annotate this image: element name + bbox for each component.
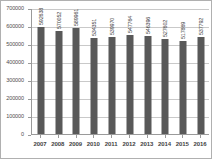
x-axis-tick-label: 2007 (31, 141, 49, 148)
bar-slot: 589961 (68, 9, 86, 134)
y-axis-tick-label: 100000 (6, 114, 24, 120)
x-axis-tick-mark (111, 135, 112, 138)
x-axis-tick-mark (76, 135, 77, 138)
x-axis-tick-label: 2010 (84, 141, 102, 148)
bar-value-label: 537792 (198, 18, 204, 35)
y-axis-tick-label: 0 (21, 132, 24, 138)
bar-value-label: 592638 (37, 8, 43, 25)
x-axis-tick-mark (129, 135, 130, 138)
x-axis-tick-mark (200, 135, 201, 138)
bar[interactable] (162, 39, 169, 134)
x-axis: 2007200820092010201120122013201420152016 (31, 135, 209, 157)
y-axis-tick-label: 200000 (6, 96, 24, 102)
x-axis-tick-label: 2016 (191, 141, 209, 148)
bar-value-label: 527602 (162, 20, 168, 37)
bar[interactable] (37, 27, 44, 134)
y-axis-tick-label: 300000 (6, 78, 24, 84)
bar-slot: 517869 (174, 9, 192, 134)
bar-value-label: 534351 (91, 19, 97, 36)
bar[interactable] (91, 38, 98, 134)
y-axis-tick-label: 500000 (6, 42, 24, 48)
bar-value-label: 517869 (180, 22, 186, 39)
x-axis-tick-label: 2014 (156, 141, 174, 148)
x-axis-tick-mark (58, 135, 59, 138)
x-axis-tick-label: 2009 (67, 141, 85, 148)
bar[interactable] (109, 37, 116, 134)
x-axis-tick-label: 2012 (120, 141, 138, 148)
bar-value-label: 547764 (126, 16, 132, 33)
x-axis-tick-mark (93, 135, 94, 138)
bar-slot: 537792 (192, 9, 210, 134)
y-axis-tick-label: 600000 (6, 24, 24, 30)
x-axis-tick-label: 2013 (138, 141, 156, 148)
bar-slot: 547764 (121, 9, 139, 134)
bar-slot: 539970 (103, 9, 121, 134)
x-axis-tick-mark (182, 135, 183, 138)
x-axis-tick-label: 2011 (102, 141, 120, 148)
bar-slot: 527602 (157, 9, 175, 134)
bar-value-label: 570052 (55, 12, 61, 29)
bar-value-label: 539970 (109, 18, 115, 35)
y-axis-tick-label: 700000 (6, 6, 24, 12)
x-axis-tick-label: 2015 (173, 141, 191, 148)
bar-slot: 546396 (139, 9, 157, 134)
bar-slot: 570052 (50, 9, 68, 134)
bar-slot: 534351 (85, 9, 103, 134)
bar-slot: 592638 (32, 9, 50, 134)
bar[interactable] (126, 35, 133, 134)
bar-value-label: 546396 (144, 17, 150, 34)
bar[interactable] (198, 37, 205, 134)
x-axis-tick-mark (165, 135, 166, 138)
y-axis: 0100000200000300000400000500000600000700… (1, 1, 31, 160)
x-axis-tick-label: 2008 (49, 141, 67, 148)
bar[interactable] (55, 31, 62, 134)
bar[interactable] (73, 28, 80, 134)
bar[interactable] (180, 41, 187, 134)
x-axis-tick-mark (147, 135, 148, 138)
bar[interactable] (144, 36, 151, 134)
bar-value-label: 589961 (73, 9, 79, 26)
plot-area: 5926385700525899615343515399705477645463… (31, 9, 209, 135)
bar-chart: 0100000200000300000400000500000600000700… (0, 0, 213, 160)
y-axis-tick-label: 400000 (6, 60, 24, 66)
chart-frame: 0100000200000300000400000500000600000700… (0, 0, 212, 159)
x-axis-tick-mark (40, 135, 41, 138)
